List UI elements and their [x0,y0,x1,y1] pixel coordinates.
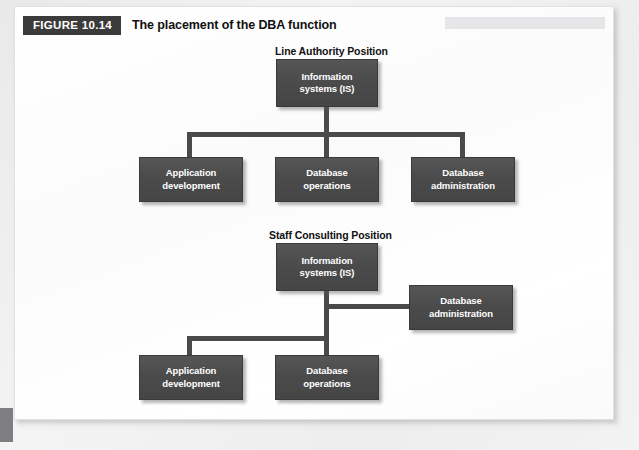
node-line-2: systems (IS) [300,267,355,279]
section-title-staff-consulting: Staff Consulting Position [269,229,392,241]
node-line-1: Application [166,167,217,179]
node-database-operations-line-authority: Database operations [275,157,379,202]
node-application-development-line-authority: Application development [139,157,243,202]
node-line-2: systems (IS) [300,83,355,95]
scan-artifact-bottom-left [0,408,13,442]
connector-drop-2-line-authority [324,132,329,160]
node-database-administration-line-authority: Database administration [411,157,515,202]
node-line-2: development [162,378,220,390]
connector-drop-1-line-authority [187,132,192,160]
figure-panel: FIGURE 10.14 The placement of the DBA fu… [14,6,614,420]
node-line-1: Database [306,365,347,377]
node-line-2: development [162,180,220,192]
node-information-systems-staff-consulting: Information systems (IS) [276,243,378,291]
node-line-1: Database [442,167,483,179]
node-line-1: Information [301,71,352,83]
node-line-1: Application [166,365,217,377]
node-line-1: Database [306,167,347,179]
node-information-systems-line-authority: Information systems (IS) [276,59,378,107]
connector-root-stem-line-authority [324,107,329,135]
node-database-administration-staff-consulting: Database administration [409,285,513,330]
connector-drop-3-line-authority [460,132,465,160]
section-title-line-authority: Line Authority Position [275,45,388,57]
node-line-1: Information [301,255,352,267]
diagram-area: Line Authority Position Information syst… [15,7,615,421]
node-database-operations-staff-consulting: Database operations [275,355,379,400]
connector-bus-staff-consulting [187,336,329,341]
node-line-2: operations [303,180,351,192]
node-application-development-staff-consulting: Application development [139,355,243,400]
connector-root-stem-staff-consulting [324,291,329,341]
node-line-1: Database [440,295,481,307]
node-line-2: administration [429,308,493,320]
figure-screenshot: FIGURE 10.14 The placement of the DBA fu… [0,0,639,450]
node-line-2: administration [431,180,495,192]
node-line-2: operations [303,378,351,390]
connector-staff-arm-staff-consulting [324,304,410,309]
